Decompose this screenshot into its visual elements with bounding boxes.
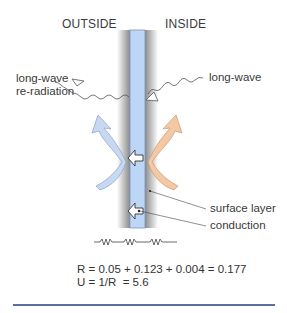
- inside-label: INSIDE: [165, 18, 206, 31]
- inside-surface-film: [145, 30, 158, 228]
- long-wave-reradiation-label-line1: long-wave: [16, 72, 68, 85]
- surface-layer-label: surface layer: [210, 202, 276, 215]
- glass-pane: [130, 30, 145, 228]
- horizontal-divider: [13, 304, 275, 306]
- long-wave-incoming-label: long-wave: [209, 71, 261, 84]
- outside-surface-film: [117, 30, 130, 228]
- u-value-equation: U = 1/R = 5.6: [77, 276, 149, 289]
- outside-label: OUTSIDE: [62, 18, 117, 31]
- resistance-equation: R = 0.05 + 0.123 + 0.004 = 0.177: [77, 263, 246, 276]
- conduction-label: conduction: [210, 219, 266, 232]
- thermal-resistance-symbol: [94, 239, 177, 245]
- long-wave-reradiation-label-line2: re-radiation: [16, 85, 74, 98]
- surface-layer-leader: [150, 191, 206, 209]
- wall: [117, 30, 158, 228]
